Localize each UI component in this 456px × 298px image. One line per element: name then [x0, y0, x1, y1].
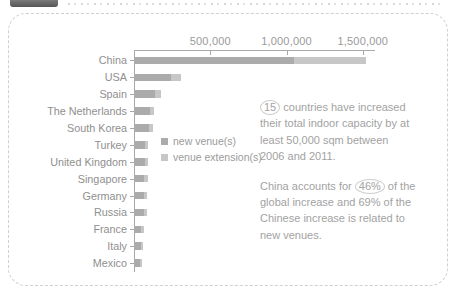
bar-segment-venue-extension-s- [140, 259, 142, 267]
bar-segment-venue-extension-s- [141, 242, 143, 250]
category-label: The Netherlands [21, 105, 134, 117]
y-axis-tick-mark [130, 77, 134, 78]
bar-russia [134, 209, 147, 217]
circled-number: 46% [355, 179, 385, 194]
cropped-title-text-remnant [68, 3, 440, 5]
annotation-paragraph-1: 15 countries have increased their total … [260, 99, 438, 165]
cropped-figure-badge [10, 0, 58, 7]
category-label: China [21, 54, 134, 66]
bar-segment-new-venue-s- [134, 192, 144, 200]
y-axis-tick-mark [130, 162, 134, 163]
bar-segment-venue-extension-s- [294, 57, 366, 65]
bar-singapore [134, 175, 148, 183]
bar-the-netherlands [134, 107, 154, 115]
bar-segment-new-venue-s- [134, 242, 141, 250]
legend-swatch-venue-extensions [161, 154, 168, 161]
bar-germany [134, 192, 147, 200]
x-tick-label: 1,500,000 [337, 35, 388, 47]
annotation-line: their total indoor capacity by at [260, 115, 438, 131]
category-label: South Korea [21, 122, 134, 134]
y-axis-tick-mark [130, 128, 134, 129]
category-label: USA [21, 71, 134, 83]
bar-track [134, 255, 375, 272]
y-axis-tick-mark [130, 94, 134, 95]
x-tick-label: 500,000 [190, 35, 231, 47]
category-label: United Kingdom [21, 156, 134, 168]
bar-segment-new-venue-s- [134, 124, 149, 132]
y-axis-tick-mark [130, 212, 134, 213]
chart-row: China [21, 52, 375, 69]
bar-segment-new-venue-s- [134, 175, 144, 183]
bar-segment-venue-extension-s- [145, 141, 149, 149]
bar-segment-new-venue-s- [134, 209, 144, 217]
legend-swatch-new-venues [161, 138, 168, 145]
bar-segment-new-venue-s- [134, 107, 150, 115]
annotation-text: 15 countries have increased their total … [260, 99, 438, 256]
bar-segment-new-venue-s- [134, 74, 171, 82]
figure-page: 500,000 1,000,000 1,500,000 ChinaUSASpai… [0, 0, 456, 298]
legend: new venue(s) venue extension(s) [161, 135, 262, 167]
bar-segment-new-venue-s- [134, 158, 145, 166]
bar-south-korea [134, 124, 153, 132]
bar-france [134, 226, 144, 234]
annotation-line: Chinese increase is related to [260, 210, 438, 226]
legend-label: new venue(s) [173, 135, 236, 147]
bar-segment-new-venue-s- [134, 90, 155, 98]
bar-segment-venue-extension-s- [171, 74, 180, 82]
y-axis-tick-mark [130, 196, 134, 197]
legend-item-venue-extensions: venue extension(s) [161, 151, 262, 163]
annotation-line: global increase and 69% of the [260, 194, 438, 210]
annotation-line: least 50,000 sqm between [260, 132, 438, 148]
y-axis-tick-mark [130, 229, 134, 230]
bar-segment-venue-extension-s- [144, 209, 147, 217]
bar-spain [134, 90, 161, 98]
chart-row: USA [21, 69, 375, 86]
category-label: Russia [21, 206, 134, 218]
category-label: Germany [21, 190, 134, 202]
y-axis-tick-mark [130, 179, 134, 180]
x-tick-label: 1,000,000 [261, 35, 312, 47]
category-label: Singapore [21, 173, 134, 185]
bar-segment-new-venue-s- [134, 226, 141, 234]
annotation-line: China accounts for 46% of the [260, 178, 438, 194]
category-label: Italy [21, 240, 134, 252]
bar-united-kingdom [134, 158, 148, 166]
x-axis-line [134, 50, 375, 51]
bar-segment-venue-extension-s- [149, 124, 153, 132]
chart-row: Mexico [21, 255, 375, 272]
y-axis-tick-mark [130, 263, 134, 264]
category-label: Mexico [21, 257, 134, 269]
annotation-paragraph-2: China accounts for 46% of the global inc… [260, 178, 438, 244]
bar-segment-venue-extension-s- [145, 158, 148, 166]
annotation-line: new venues. [260, 227, 438, 243]
category-label: Turkey [21, 139, 134, 151]
bar-segment-new-venue-s- [134, 57, 294, 65]
legend-item-new-venues: new venue(s) [161, 135, 262, 147]
bar-track [134, 52, 375, 69]
circled-number: 15 [260, 100, 280, 115]
annotation-line: 2006 and 2011. [260, 148, 438, 164]
category-label: Spain [21, 88, 134, 100]
bar-mexico [134, 259, 142, 267]
y-axis-tick-mark [130, 60, 134, 61]
bar-italy [134, 242, 143, 250]
bar-segment-venue-extension-s- [155, 90, 160, 98]
bar-china [134, 57, 366, 65]
chart-panel: 500,000 1,000,000 1,500,000 ChinaUSASpai… [8, 13, 448, 286]
category-label: France [21, 223, 134, 235]
y-axis-tick-mark [130, 246, 134, 247]
bar-segment-venue-extension-s- [144, 175, 147, 183]
annotation-line: 15 countries have increased [260, 99, 438, 115]
y-axis-tick-mark [130, 145, 134, 146]
legend-label: venue extension(s) [173, 151, 262, 163]
bar-turkey [134, 141, 148, 149]
bar-segment-venue-extension-s- [150, 107, 154, 115]
bar-track [134, 69, 375, 86]
bar-segment-venue-extension-s- [144, 192, 147, 200]
bar-usa [134, 74, 181, 82]
bar-segment-venue-extension-s- [141, 226, 144, 234]
y-axis-tick-mark [130, 111, 134, 112]
bar-segment-new-venue-s- [134, 141, 145, 149]
